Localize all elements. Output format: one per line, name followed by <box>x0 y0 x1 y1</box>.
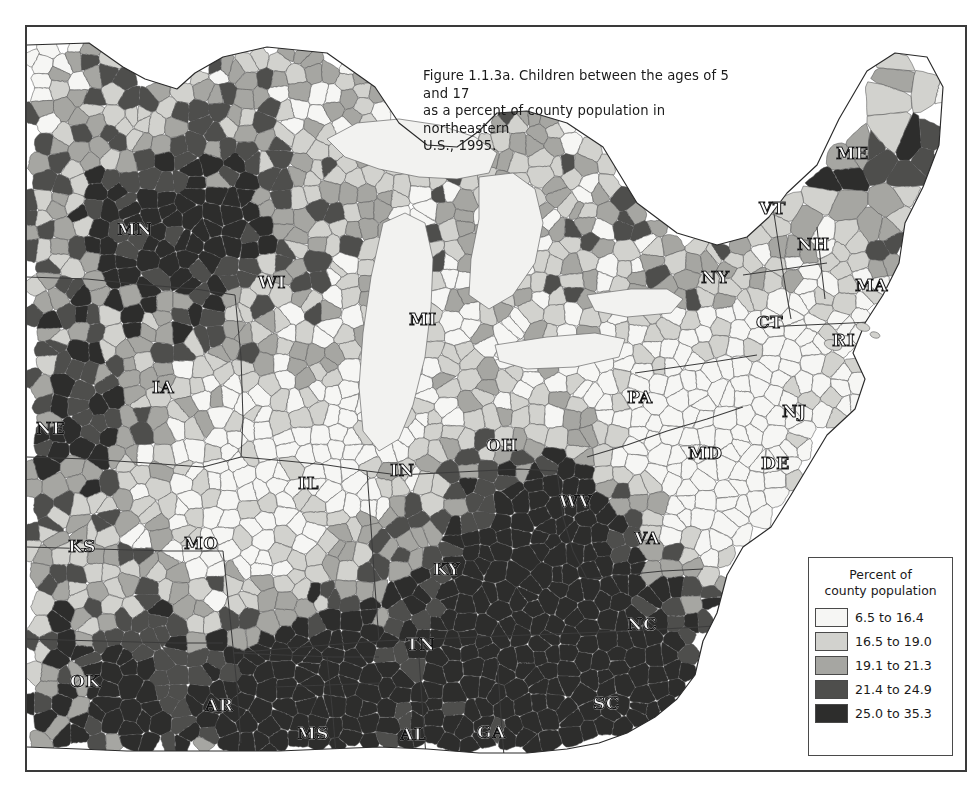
legend-label: 21.4 to 24.9 <box>855 682 932 697</box>
legend-label: 19.1 to 21.3 <box>855 658 932 673</box>
legend-swatch <box>815 680 848 699</box>
legend-row: 21.4 to 24.9 <box>815 677 952 701</box>
legend-swatch <box>815 704 848 723</box>
legend-swatch <box>815 656 848 675</box>
legend-label: 25.0 to 35.3 <box>855 706 932 721</box>
figure-page: MNWIMIIANEKSMOILINOHKYWVVAPAMDDENJNYCTRI… <box>0 0 975 794</box>
legend-label: 6.5 to 16.4 <box>855 610 924 625</box>
legend-row: 25.0 to 35.3 <box>815 701 952 725</box>
legend-swatch <box>815 608 848 627</box>
legend-row: 6.5 to 16.4 <box>815 605 952 629</box>
legend-swatch <box>815 632 848 651</box>
legend-label: 16.5 to 19.0 <box>855 634 932 649</box>
legend-rows: 6.5 to 16.416.5 to 19.019.1 to 21.321.4 … <box>809 605 952 725</box>
legend-title: Percent of county population <box>809 567 952 598</box>
legend-box: Percent of county population 6.5 to 16.4… <box>808 557 953 756</box>
figure-title: Figure 1.1.3a. Children between the ages… <box>423 67 753 155</box>
legend-row: 16.5 to 19.0 <box>815 629 952 653</box>
legend-row: 19.1 to 21.3 <box>815 653 952 677</box>
